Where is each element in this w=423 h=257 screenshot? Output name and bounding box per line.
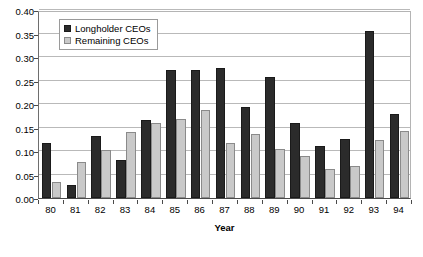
- y-axis-tick-label: 0.05: [0, 170, 34, 181]
- y-axis-tick-label: 0.25: [0, 76, 34, 87]
- legend-item-remaining: Remaining CEOs: [64, 35, 151, 46]
- bar: [325, 169, 335, 198]
- y-axis-tick-mark: [34, 35, 38, 36]
- bar: [390, 114, 400, 198]
- bar: [101, 150, 111, 198]
- y-axis-tick-label: 0.00: [0, 194, 34, 205]
- legend-label-longholder: Longholder CEOs: [75, 23, 151, 34]
- bar: [141, 120, 151, 198]
- y-axis-tick-mark: [34, 129, 38, 130]
- y-axis-tick-label: 0.35: [0, 29, 34, 40]
- bar: [375, 140, 385, 198]
- y-axis-tick-label: 0.10: [0, 147, 34, 158]
- bar: [275, 149, 285, 198]
- legend-swatch-icon-longholder: [64, 25, 71, 32]
- y-axis-tick-mark: [34, 176, 38, 177]
- y-axis-tick-label: 0.40: [0, 6, 34, 17]
- y-axis-tick-label: 0.15: [0, 123, 34, 134]
- y-axis-tick-label: 0.20: [0, 100, 34, 111]
- bar: [67, 185, 77, 198]
- y-axis-tick-mark: [34, 82, 38, 83]
- bar: [151, 123, 161, 198]
- x-axis-tick-label: 94: [384, 204, 414, 215]
- chart-legend: Longholder CEOs Remaining CEOs: [59, 19, 158, 50]
- bar: [226, 143, 236, 198]
- bar: [166, 70, 176, 198]
- y-axis-tick-mark: [34, 11, 38, 12]
- x-axis-title: Year: [38, 222, 411, 233]
- bar: [116, 160, 126, 198]
- legend-swatch-icon-remaining: [64, 37, 71, 44]
- bar: [241, 107, 251, 198]
- bar: [77, 162, 87, 198]
- legend-item-longholder: Longholder CEOs: [64, 23, 151, 34]
- legend-label-remaining: Remaining CEOs: [75, 35, 148, 46]
- bar: [265, 77, 275, 198]
- bar: [350, 166, 360, 198]
- bar: [176, 119, 186, 198]
- bar: [201, 110, 211, 198]
- bar: [340, 139, 350, 198]
- bar: [91, 136, 101, 199]
- y-axis-tick-mark: [34, 105, 38, 106]
- bar: [216, 68, 226, 198]
- bar: [42, 143, 52, 198]
- bar: [315, 146, 325, 198]
- y-axis-tick-mark: [34, 58, 38, 59]
- bar: [251, 134, 261, 198]
- bar: [52, 182, 62, 198]
- bar: [400, 131, 410, 198]
- gridline: [39, 9, 410, 10]
- y-axis-tick-mark: [34, 152, 38, 153]
- bar: [191, 70, 201, 198]
- bar: [290, 123, 300, 198]
- bar: [126, 132, 136, 198]
- y-axis-tick-label: 0.30: [0, 53, 34, 64]
- bar: [300, 156, 310, 198]
- bar-chart: 0.000.050.100.150.200.250.300.350.40 808…: [0, 0, 423, 257]
- bar: [365, 31, 375, 198]
